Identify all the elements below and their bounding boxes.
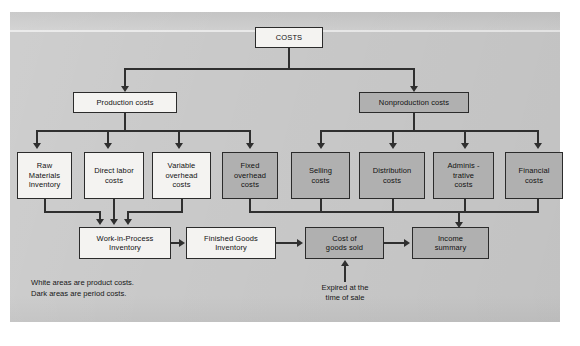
- arrow-raw-materials: [33, 143, 41, 149]
- node-costs: COSTS: [255, 27, 323, 48]
- node-finished-goods-inventory-label: Finished Goods Inventory: [204, 234, 258, 253]
- node-costs-label: COSTS: [276, 33, 302, 43]
- edge-finished-to-cogs: [276, 242, 298, 244]
- node-production-costs-label: Production costs: [96, 98, 153, 108]
- arrow-labor-into-wip: [110, 219, 118, 225]
- edge-drop-labor: [107, 130, 109, 144]
- node-work-in-process-inventory-label: Work-in-Process Inventory: [97, 234, 154, 253]
- arrow-variable-into-wip: [124, 219, 132, 225]
- edge-nonproduction-down: [413, 113, 415, 131]
- node-variable-overhead-costs-label: Variable overhead costs: [165, 161, 197, 190]
- arrow-cogs-to-income: [404, 239, 410, 247]
- node-cost-of-goods-sold: Cost of goods sold: [305, 227, 384, 259]
- edge-drop-administrative: [464, 130, 466, 144]
- node-direct-labor-costs-label: Direct labor costs: [94, 166, 134, 185]
- node-direct-labor-costs: Direct labor costs: [84, 152, 144, 199]
- arrow-financial: [534, 143, 542, 149]
- diagram-canvas: COSTS Production costs Nonproduction cos…: [0, 0, 580, 346]
- arrow-distribution: [389, 143, 397, 149]
- node-distribution-costs: Distribution costs: [359, 152, 425, 199]
- edge-production-bus: [36, 130, 249, 132]
- arrow-direct-labor: [104, 143, 112, 149]
- edge-variable-left: [127, 211, 183, 213]
- edge-bus-to-nonproduction: [413, 68, 415, 87]
- edge-drop-selling: [320, 130, 322, 144]
- node-income-summary: Income summary: [412, 227, 489, 259]
- edge-drop-raw: [36, 130, 38, 144]
- node-nonproduction-costs: Nonproduction costs: [359, 92, 469, 113]
- arrow-raw-into-wip: [96, 219, 104, 225]
- node-raw-materials-inventory-label: Raw Materials Inventory: [29, 161, 61, 190]
- node-selling-costs: Selling costs: [291, 152, 350, 199]
- node-cost-of-goods-sold-label: Cost of goods sold: [326, 234, 363, 253]
- annotation-expired-at-time-of-sale: Expired at the time of sale: [300, 283, 390, 303]
- arrow-finished-to-cogs: [297, 239, 303, 247]
- edge-drop-financial: [537, 130, 539, 144]
- arrow-administrative: [461, 143, 469, 149]
- arrow-variable-overhead: [175, 143, 183, 149]
- edge-fixed-right: [249, 211, 331, 213]
- edge-drop-variable: [178, 130, 180, 144]
- edge-production-down: [124, 113, 126, 131]
- node-work-in-process-inventory: Work-in-Process Inventory: [79, 227, 171, 259]
- edge-labor-into-wip: [113, 199, 115, 220]
- edge-expired-up: [344, 266, 346, 282]
- edge-cogs-to-income: [384, 242, 405, 244]
- node-administrative-costs-label: Adminis - trative costs: [447, 161, 479, 190]
- node-nonproduction-costs-label: Nonproduction costs: [379, 98, 449, 108]
- arrow-wip-to-finished: [179, 239, 185, 247]
- node-variable-overhead-costs: Variable overhead costs: [152, 152, 211, 199]
- legend-text: White areas are product costs. Dark area…: [31, 278, 261, 299]
- edge-raw-right: [44, 211, 100, 213]
- edge-drop-distribution: [392, 130, 394, 144]
- node-selling-costs-label: Selling costs: [309, 166, 332, 185]
- arrow-fixed-overhead: [246, 143, 254, 149]
- edge-drop-fixed: [249, 130, 251, 144]
- node-fixed-overhead-costs: Fixed overhead costs: [222, 152, 278, 199]
- edge-bus-to-production: [124, 68, 126, 87]
- node-finished-goods-inventory: Finished Goods Inventory: [186, 227, 276, 259]
- node-administrative-costs: Adminis - trative costs: [433, 152, 494, 199]
- node-financial-costs: Financial costs: [505, 152, 563, 199]
- node-income-summary-label: Income summary: [435, 234, 467, 253]
- arrow-selling: [317, 143, 325, 149]
- node-distribution-costs-label: Distribution costs: [373, 166, 412, 185]
- edge-costs-down: [288, 48, 290, 69]
- edge-level1-bus: [124, 68, 414, 70]
- node-production-costs: Production costs: [73, 92, 177, 113]
- node-fixed-overhead-costs-label: Fixed overhead costs: [234, 161, 266, 190]
- arrow-expired-into-cogs: [341, 260, 349, 266]
- edge-nonproduction-bus: [320, 130, 537, 132]
- edge-period-cost-bus: [320, 211, 539, 213]
- node-financial-costs-label: Financial costs: [519, 166, 550, 185]
- node-raw-materials-inventory: Raw Materials Inventory: [17, 152, 72, 199]
